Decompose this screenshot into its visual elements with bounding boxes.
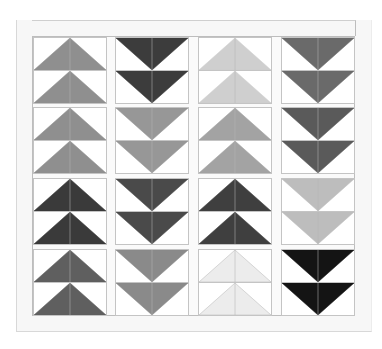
flying-geese-unit	[281, 211, 355, 245]
flying-geese-unit	[33, 211, 107, 245]
flying-geese-unit	[33, 282, 107, 316]
column-3	[198, 36, 272, 316]
triangle-up-icon	[199, 250, 271, 282]
flying-geese-unit	[115, 178, 189, 212]
flying-geese-unit	[198, 107, 272, 141]
triangle-down-icon	[282, 108, 354, 140]
triangle-up-icon	[34, 179, 106, 211]
flying-geese-unit	[33, 140, 107, 174]
flying-geese-unit	[33, 249, 107, 283]
flying-geese-unit	[115, 107, 189, 141]
column-4	[281, 36, 355, 316]
triangle-up-icon	[199, 283, 271, 315]
flying-geese-unit	[33, 107, 107, 141]
flying-geese-unit	[115, 37, 189, 71]
triangle-up-icon	[199, 71, 271, 103]
flying-geese-unit	[198, 249, 272, 283]
triangle-down-icon	[282, 38, 354, 70]
triangle-up-icon	[34, 141, 106, 173]
triangle-down-icon	[116, 141, 188, 173]
flying-geese-unit	[281, 249, 355, 283]
triangle-up-icon	[199, 141, 271, 173]
triangle-down-icon	[282, 283, 354, 315]
flying-geese-unit	[281, 37, 355, 71]
triangle-down-icon	[116, 108, 188, 140]
flying-geese-unit	[281, 178, 355, 212]
triangle-up-icon	[199, 108, 271, 140]
flying-geese-unit	[115, 140, 189, 174]
triangle-down-icon	[116, 283, 188, 315]
flying-geese-unit	[33, 37, 107, 71]
flying-geese-unit	[281, 107, 355, 141]
triangle-up-icon	[34, 108, 106, 140]
flying-geese-unit	[33, 178, 107, 212]
flying-geese-unit	[115, 70, 189, 104]
flying-geese-unit	[281, 70, 355, 104]
flying-geese-unit	[198, 70, 272, 104]
triangle-down-icon	[116, 38, 188, 70]
triangle-up-icon	[199, 212, 271, 244]
flying-geese-unit	[198, 140, 272, 174]
triangle-up-icon	[199, 38, 271, 70]
column-2	[115, 36, 189, 316]
triangle-up-icon	[34, 71, 106, 103]
flying-geese-unit	[115, 249, 189, 283]
triangle-down-icon	[282, 250, 354, 282]
triangle-up-icon	[34, 212, 106, 244]
triangle-down-icon	[282, 141, 354, 173]
flying-geese-unit	[115, 282, 189, 316]
triangle-down-icon	[116, 250, 188, 282]
triangle-down-icon	[282, 179, 354, 211]
flying-geese-unit	[281, 282, 355, 316]
flying-geese-unit	[115, 211, 189, 245]
flying-geese-unit	[281, 140, 355, 174]
flying-geese-unit	[198, 37, 272, 71]
triangle-down-icon	[116, 179, 188, 211]
flying-geese-unit	[198, 282, 272, 316]
flying-geese-unit	[33, 70, 107, 104]
triangle-up-icon	[34, 250, 106, 282]
quilt-top-border	[32, 20, 356, 36]
triangle-down-icon	[282, 212, 354, 244]
triangle-up-icon	[34, 38, 106, 70]
flying-geese-unit	[198, 178, 272, 212]
triangle-down-icon	[282, 71, 354, 103]
triangle-up-icon	[34, 283, 106, 315]
triangle-down-icon	[116, 71, 188, 103]
triangle-up-icon	[199, 179, 271, 211]
triangle-down-icon	[116, 212, 188, 244]
flying-geese-unit	[198, 211, 272, 245]
column-1	[33, 36, 107, 316]
